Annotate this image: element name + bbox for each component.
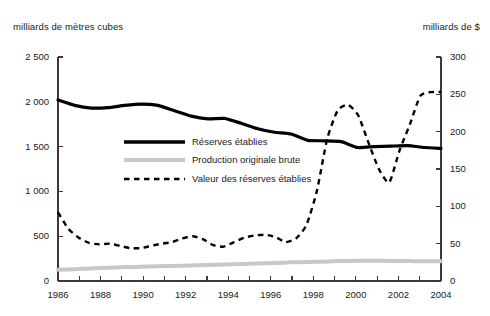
legend-item-label: Réserves établies xyxy=(192,137,268,147)
right-axis-tick-label: 150 xyxy=(450,164,466,174)
series-line-2 xyxy=(58,261,441,270)
legend-item-label: Valeur des réserves établies xyxy=(192,174,311,184)
x-axis-tick-label: 2004 xyxy=(411,290,471,300)
left-axis-tick-label: 500 xyxy=(0,231,49,241)
left-axis-tick-label: 1 500 xyxy=(0,142,49,152)
right-axis-tick-label: 50 xyxy=(450,239,461,249)
right-axis-tick-label: 100 xyxy=(450,201,466,211)
left-axis-tick-label: 2 500 xyxy=(0,52,49,62)
left-axis-tick-label: 1 000 xyxy=(0,186,49,196)
chart-container: milliards de mètres cubes milliards de $… xyxy=(0,0,490,316)
left-axis-tick-label: 2 000 xyxy=(0,97,49,107)
right-axis-tick-label: 300 xyxy=(450,52,466,62)
right-axis-tick-label: 250 xyxy=(450,89,466,99)
left-axis-tick-label: 0 xyxy=(0,276,49,286)
right-axis-tick-label: 0 xyxy=(450,276,455,286)
series-line-3 xyxy=(58,92,441,248)
axes-group xyxy=(58,57,441,281)
legend-swatches xyxy=(124,142,185,179)
right-axis-tick-label: 200 xyxy=(450,127,466,137)
legend-item-label: Production originale brute xyxy=(192,155,300,165)
